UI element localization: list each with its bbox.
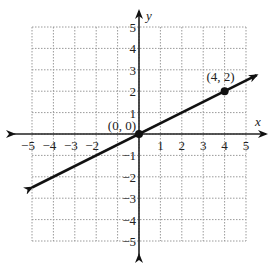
y-tick-label: 5 [130, 20, 137, 35]
data-point [135, 130, 143, 138]
x-tick-label: 1 [157, 138, 164, 153]
y-tick-label: 3 [130, 63, 137, 78]
y-tick-label: −5 [122, 234, 136, 249]
point-label: (0, 0) [108, 118, 136, 133]
y-tick-label: −2 [122, 170, 136, 185]
y-tick-label: 4 [130, 41, 137, 56]
x-tick-label: 3 [200, 138, 207, 153]
y-tick-label: −1 [122, 148, 136, 163]
x-tick-label: −3 [64, 138, 78, 153]
x-tick-label: 2 [179, 138, 186, 153]
x-tick-label: 4 [221, 138, 228, 153]
data-point [221, 87, 229, 95]
x-tick-label: −4 [42, 138, 56, 153]
y-tick-label: −3 [122, 191, 136, 206]
y-axis-label: y [144, 8, 152, 23]
x-tick-label: 5 [243, 138, 250, 153]
x-tick-label: −2 [85, 138, 99, 153]
coordinate-plane: −5−4−3−21234554321−1−2−3−4−5 (0, 0)(4, 2… [0, 0, 275, 266]
x-axis-label: x [254, 114, 261, 129]
y-tick-label: 2 [130, 84, 137, 99]
x-tick-label: −5 [21, 138, 35, 153]
data-points: (0, 0)(4, 2) [108, 69, 235, 138]
y-tick-label: −4 [122, 213, 136, 228]
point-label: (4, 2) [207, 69, 235, 84]
